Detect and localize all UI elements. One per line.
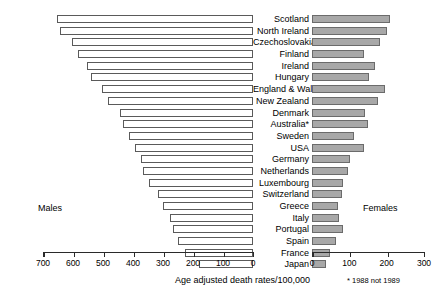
female-bar-row (312, 224, 424, 236)
country-label: Scotland (253, 14, 312, 26)
female-bar-row (312, 189, 424, 201)
country-label: Netherlands (253, 166, 312, 178)
female-bar (312, 120, 368, 128)
female-bar-row (312, 119, 424, 131)
axis-tick-label: 200 (186, 258, 200, 268)
male-bar (158, 190, 253, 198)
country-label: North Ireland (253, 26, 312, 38)
axis-tick-label: 200 (380, 258, 394, 268)
male-bar-row (43, 14, 253, 26)
male-bar-row (43, 37, 253, 49)
male-bar-row (43, 201, 253, 213)
male-bar (102, 85, 254, 93)
axis-tick (104, 253, 105, 257)
axis-tick-label: 0 (310, 258, 315, 268)
male-bar (135, 144, 254, 152)
females-axis-line (312, 252, 425, 257)
axis-tick (44, 253, 45, 257)
female-bar (312, 179, 343, 187)
country-label: Greece (253, 201, 312, 213)
axis-tick (388, 253, 389, 257)
male-bar (173, 225, 253, 233)
axis-tick (194, 253, 195, 257)
footnote: * 1988 not 1989 (347, 276, 400, 285)
male-bar-row (43, 166, 253, 178)
axis-tick-label: 0 (251, 258, 256, 268)
male-bar (78, 50, 254, 58)
country-label: England & Wales (253, 84, 312, 96)
axis-tick (224, 253, 225, 257)
male-bar (163, 202, 253, 210)
axis-tick (134, 253, 135, 257)
females-panel-label: Females (363, 203, 398, 213)
axis-tick (313, 253, 314, 257)
country-label: Germany (253, 154, 312, 166)
male-bar (60, 27, 254, 35)
axis-tick-label: 100 (342, 258, 356, 268)
axis-tick (424, 253, 425, 257)
male-bar (143, 167, 253, 175)
chart-container: ScotlandNorth IrelandCzechoslovakiaFinla… (0, 0, 434, 301)
axis-tick-label: 300 (417, 258, 431, 268)
male-bar (170, 214, 253, 222)
male-bar-row (43, 154, 253, 166)
male-bar-row (43, 72, 253, 84)
country-label: Hungary (253, 72, 312, 84)
axis-tick-label: 300 (156, 258, 170, 268)
country-label: Italy (253, 213, 312, 225)
female-bar (312, 109, 365, 117)
female-bar (312, 62, 375, 70)
x-axis-title: Age adjusted death rates/100,000 (175, 275, 310, 285)
male-bar-row (43, 96, 253, 108)
female-bar (312, 27, 387, 35)
male-bar-row (43, 213, 253, 225)
axis-tick-label: 500 (96, 258, 110, 268)
male-bar-row (43, 108, 253, 120)
axis-tick (164, 253, 165, 257)
male-bar-row (43, 84, 253, 96)
female-bar-row (312, 61, 424, 73)
axis-tick-label: 100 (216, 258, 230, 268)
male-bar (91, 73, 253, 81)
country-label: Czechoslovakia (253, 37, 312, 49)
male-bar-row (43, 119, 253, 131)
country-label: Sweden (253, 131, 312, 143)
female-bar-row (312, 166, 424, 178)
country-label: Ireland (253, 61, 312, 73)
axis-tick-label: 700 (36, 258, 50, 268)
female-bar-row (312, 259, 424, 271)
female-bar (312, 190, 342, 198)
male-bar (178, 237, 253, 245)
female-bar (312, 155, 350, 163)
country-label: USA (253, 143, 312, 155)
female-bar-row (312, 213, 424, 225)
female-bar-row (312, 49, 424, 61)
country-label: France (253, 248, 312, 260)
male-bar (123, 120, 254, 128)
country-label: Switzerland (253, 189, 312, 201)
country-labels-axis: ScotlandNorth IrelandCzechoslovakiaFinla… (253, 14, 312, 271)
female-bar (312, 15, 390, 23)
male-bar-row (43, 61, 253, 73)
male-bar-row (43, 178, 253, 190)
male-bar-row (43, 131, 253, 143)
female-bar (312, 144, 364, 152)
male-bar (57, 15, 254, 23)
male-bar-row (43, 224, 253, 236)
country-label: New Zealand (253, 96, 312, 108)
male-bar-row (43, 236, 253, 248)
female-bar (312, 73, 369, 81)
female-bar (312, 132, 354, 140)
female-bar-row (312, 26, 424, 38)
male-bar (120, 109, 253, 117)
male-bar (87, 62, 254, 70)
axis-tick-label: 600 (66, 258, 80, 268)
female-bar (312, 214, 339, 222)
country-label: Portugal (253, 224, 312, 236)
male-bar-row (43, 143, 253, 155)
female-bar-row (312, 131, 424, 143)
female-bar-row (312, 178, 424, 190)
males-bars-panel (43, 14, 253, 271)
country-label: Denmark (253, 108, 312, 120)
country-label: Japan (253, 259, 312, 271)
